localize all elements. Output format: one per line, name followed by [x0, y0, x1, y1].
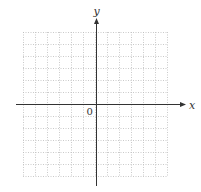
y-axis-arrow-icon [94, 18, 99, 24]
x-axis-arrow-icon [180, 102, 186, 107]
y-axis-label: y [93, 5, 101, 18]
x-axis [16, 102, 186, 107]
coordinate-plane: x y 0 [0, 0, 201, 192]
x-axis-label: x [189, 99, 196, 112]
y-axis [94, 18, 99, 186]
origin-label: 0 [87, 106, 93, 117]
